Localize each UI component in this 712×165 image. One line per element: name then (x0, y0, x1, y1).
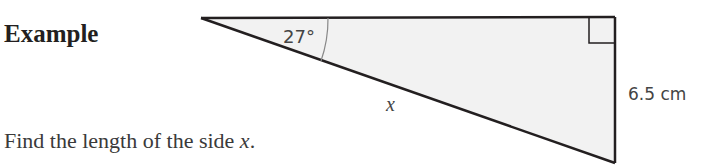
angle-label: 27° (283, 26, 315, 47)
hypotenuse-label: x (385, 93, 395, 115)
side-length-label: 6.5 cm (628, 84, 686, 104)
adjacent-side (201, 17, 615, 18)
triangle-diagram: 27° x 6.5 cm (0, 0, 712, 165)
